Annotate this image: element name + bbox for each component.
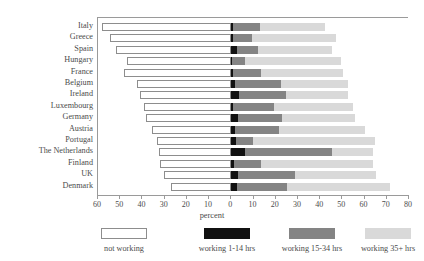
legend-label: working 35+ hrs: [340, 244, 424, 253]
x-axis-tick-label: 30: [287, 200, 307, 209]
category-label: Belgium: [0, 78, 93, 87]
bar-segment-not-working: [102, 23, 231, 31]
bar-segment-not-working: [144, 103, 232, 111]
legend-item: not working: [76, 228, 172, 253]
bar-segment-not-working: [124, 69, 232, 77]
bar-row: [98, 57, 408, 65]
category-label: Finland: [0, 158, 93, 167]
bar-row: [98, 160, 408, 168]
bar-series-container: [98, 18, 408, 195]
x-axis-tick-label: 60: [87, 200, 107, 209]
x-axis-tick-label: 50: [331, 200, 351, 209]
x-axis-title: percent: [0, 211, 424, 220]
bar-segment-not-working: [159, 148, 231, 156]
bar-segment-working-15-34: [233, 23, 260, 31]
x-axis-tick-label: 10: [198, 200, 218, 209]
x-axis-tick-label: 20: [265, 200, 285, 209]
bar-segment-not-working: [146, 114, 232, 122]
stacked-bar-chart: ItalyGreeceSpainHungaryFranceBelgiumIrel…: [0, 0, 424, 261]
bar-segment-not-working: [160, 160, 231, 168]
bar-segment-not-working: [171, 183, 231, 191]
bar-segment-working-15-34: [234, 160, 261, 168]
bar-segment-not-working: [164, 171, 232, 179]
chart-legend: not workingworking 1-14 hrsworking 15-34…: [0, 228, 424, 258]
bar-row: [98, 114, 408, 122]
x-axis-tick: [408, 195, 409, 199]
bar-row: [98, 126, 408, 134]
bar-segment-working-15-34: [233, 103, 274, 111]
category-label: The Netherlands: [0, 146, 93, 155]
x-axis-tick: [275, 195, 276, 199]
category-label: Ireland: [0, 89, 93, 98]
x-axis-tick-label: 40: [131, 200, 151, 209]
bar-segment-working-15-34: [232, 57, 244, 65]
legend-swatch: [365, 228, 411, 239]
bar-segment-working-35-plus: [245, 57, 342, 65]
category-label: Austria: [0, 124, 93, 133]
x-axis-tick: [386, 195, 387, 199]
bar-segment-working-35-plus: [261, 69, 343, 77]
x-axis-tick: [119, 195, 120, 199]
bar-segment-working-35-plus: [252, 34, 336, 42]
bar-segment-working-15-34: [235, 80, 282, 88]
bar-segment-working-35-plus: [332, 148, 373, 156]
category-label: Spain: [0, 44, 93, 53]
bar-segment-working-35-plus: [282, 114, 355, 122]
x-axis-tick: [297, 195, 298, 199]
bar-segment-working-15-34: [239, 91, 286, 99]
bar-segment-working-35-plus: [281, 80, 348, 88]
bar-segment-working-15-34: [245, 148, 333, 156]
bar-segment-working-15-34: [237, 46, 258, 54]
bar-segment-working-35-plus: [287, 183, 390, 191]
bar-row: [98, 91, 408, 99]
bar-segment-not-working: [127, 57, 231, 65]
bar-segment-working-35-plus: [295, 171, 376, 179]
bar-row: [98, 103, 408, 111]
bar-segment-working-35-plus: [286, 91, 348, 99]
x-axis-tick: [208, 195, 209, 199]
bar-row: [98, 80, 408, 88]
x-axis-tick: [319, 195, 320, 199]
x-axis-tick-label: 30: [154, 200, 174, 209]
category-label: Germany: [0, 112, 93, 121]
category-label: UK: [0, 169, 93, 178]
category-label: Denmark: [0, 181, 93, 190]
legend-swatch: [289, 228, 335, 239]
category-label: Greece: [0, 32, 93, 41]
bar-segment-working-35-plus: [253, 137, 375, 145]
category-axis-labels: ItalyGreeceSpainHungaryFranceBelgiumIrel…: [0, 17, 93, 195]
bar-segment-working-15-34: [235, 126, 278, 134]
x-axis-tick: [141, 195, 142, 199]
bar-segment-working-35-plus: [261, 160, 373, 168]
bar-segment-working-1-14: [231, 148, 244, 156]
plot-area: [97, 17, 408, 195]
bar-segment-working-15-34: [238, 114, 282, 122]
bar-segment-working-1-14: [231, 91, 239, 99]
legend-label: not working: [76, 244, 172, 253]
x-axis-tick-label: 60: [354, 200, 374, 209]
x-axis-tick: [97, 195, 98, 199]
bar-segment-working-35-plus: [274, 103, 353, 111]
bar-row: [98, 183, 408, 191]
bar-segment-working-35-plus: [279, 126, 366, 134]
x-axis-tick-label: 50: [109, 200, 129, 209]
bar-row: [98, 23, 408, 31]
x-axis-tick-label: 70: [376, 200, 396, 209]
legend-item: working 35+ hrs: [340, 228, 424, 253]
category-label: France: [0, 67, 93, 76]
bar-segment-working-15-34: [236, 137, 253, 145]
bar-segment-working-15-34: [233, 34, 252, 42]
x-axis-tick: [364, 195, 365, 199]
bar-segment-not-working: [152, 126, 231, 134]
bar-segment-not-working: [157, 137, 231, 145]
legend-swatch: [204, 228, 250, 239]
bar-row: [98, 46, 408, 54]
bar-segment-working-35-plus: [260, 23, 326, 31]
x-axis-tick: [186, 195, 187, 199]
x-axis-tick: [341, 195, 342, 199]
bar-segment-working-35-plus: [258, 46, 332, 54]
bar-segment-working-15-34: [233, 69, 261, 77]
bar-row: [98, 171, 408, 179]
x-axis-tick: [164, 195, 165, 199]
bar-segment-working-15-34: [238, 171, 296, 179]
